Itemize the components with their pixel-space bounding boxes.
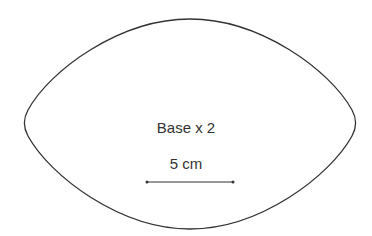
scale-bar-start	[146, 181, 149, 184]
pattern-shape	[0, 0, 372, 236]
piece-label: Base x 2	[0, 119, 372, 136]
scale-bar-end	[232, 181, 235, 184]
scale-label: 5 cm	[0, 155, 372, 172]
